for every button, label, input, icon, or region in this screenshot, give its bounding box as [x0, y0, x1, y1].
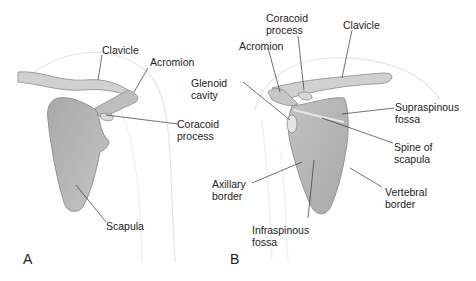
label-acromion-b: Acromion — [239, 40, 283, 52]
label-coracoid-process-a: Coracoid process — [177, 118, 219, 142]
label-vertebral-border: Vertebral border — [385, 186, 427, 210]
coracoid-bone-b — [298, 92, 312, 100]
coracoid-bone-a — [100, 113, 113, 121]
label-coracoid-process-b: Coracoid process — [266, 12, 308, 36]
label-clavicle-b: Clavicle — [343, 19, 380, 31]
shoulder-anatomy-figure: Clavicle Acromion Coracoid process Scapu… — [0, 0, 476, 281]
label-axillary-border: Axillary border — [212, 178, 246, 202]
clavicle-bone-b — [272, 73, 392, 98]
panel-letter-b: B — [230, 251, 239, 267]
glenoid-cavity-shape — [287, 115, 297, 133]
acromion-bone-a — [92, 90, 138, 118]
label-spine-of-scapula: Spine of scapula — [394, 141, 433, 165]
clavicle-bone-a — [18, 72, 130, 96]
label-acromion-a: Acromion — [150, 56, 194, 68]
label-supraspinous-fossa: Supraspinous fossa — [395, 101, 459, 125]
label-clavicle-a: Clavicle — [102, 44, 139, 56]
panel-a-drawing — [18, 53, 175, 263]
label-glenoid-cavity: Glenoid cavity — [191, 77, 227, 101]
label-infraspinous-fossa: Infraspinous fossa — [252, 224, 309, 248]
panel-letter-a: A — [23, 251, 32, 267]
label-scapula-a: Scapula — [106, 220, 144, 232]
